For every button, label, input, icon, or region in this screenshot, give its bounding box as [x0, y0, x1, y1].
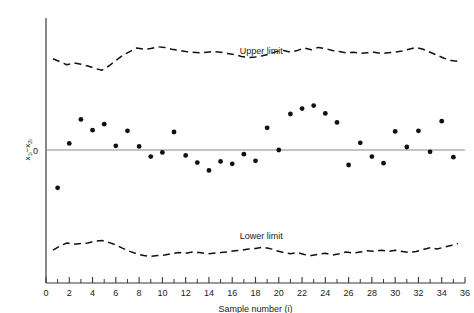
curve-annotation: Upper limit	[240, 46, 284, 56]
x-tick-label: 16	[227, 288, 237, 298]
data-point	[253, 158, 258, 163]
x-tick-label: 0	[43, 288, 48, 298]
data-point	[148, 154, 153, 159]
x-tick-label: 26	[344, 288, 354, 298]
data-point	[125, 128, 130, 133]
x-axis-title: Sample number (i)	[218, 304, 292, 313]
data-point	[335, 120, 340, 125]
data-point	[113, 143, 118, 148]
data-point	[300, 106, 305, 111]
chart-figure: 024681012141618202224262830323436 Upper …	[0, 0, 474, 313]
x-tick-label: 34	[437, 288, 447, 298]
x-tick-label: 28	[367, 288, 377, 298]
data-point	[55, 185, 60, 190]
data-point	[218, 159, 223, 164]
x-tick-label: 10	[157, 288, 167, 298]
scatter-chart-canvas: 024681012141618202224262830323436 Upper …	[0, 0, 474, 313]
data-point	[358, 140, 363, 145]
zero-tick-label: 0	[33, 146, 38, 156]
data-point	[428, 149, 433, 154]
data-point	[195, 160, 200, 165]
x-tick-label: 8	[137, 288, 142, 298]
data-point	[393, 129, 398, 134]
data-point	[241, 152, 246, 157]
data-point	[90, 128, 95, 133]
x-tick-label: 32	[413, 288, 423, 298]
data-point	[67, 141, 72, 146]
data-point	[404, 145, 409, 150]
zero-label: 0	[33, 146, 38, 156]
data-point	[160, 150, 165, 155]
x-tick-label: 20	[274, 288, 284, 298]
data-point	[381, 161, 386, 166]
data-point	[369, 154, 374, 159]
x-tick-label: 2	[67, 288, 72, 298]
data-point	[79, 117, 84, 122]
chart-background	[0, 0, 474, 313]
data-point	[276, 148, 281, 153]
data-point	[230, 161, 235, 166]
x-tick-label: 6	[113, 288, 118, 298]
x-tick-label: 36	[460, 288, 470, 298]
data-point	[451, 155, 456, 160]
x-tick-label: 18	[250, 288, 260, 298]
data-point	[288, 112, 293, 117]
x-tick-label: 14	[204, 288, 214, 298]
x-tick-label: 22	[297, 288, 307, 298]
data-point	[323, 111, 328, 116]
x-tick-label: 4	[90, 288, 95, 298]
data-point	[207, 168, 212, 173]
data-point	[102, 122, 107, 127]
data-point	[346, 163, 351, 168]
x-tick-label: 24	[320, 288, 330, 298]
data-point	[137, 144, 142, 149]
data-point	[416, 128, 421, 133]
x-axis-label: Sample number (i)	[218, 304, 292, 313]
x-tick-label: 12	[181, 288, 191, 298]
curve-annotation: Lower limit	[240, 231, 284, 241]
data-point	[183, 153, 188, 158]
x-tick-label: 30	[390, 288, 400, 298]
data-point	[265, 125, 270, 130]
data-point	[439, 119, 444, 124]
data-point	[172, 130, 177, 135]
data-point	[311, 103, 316, 108]
